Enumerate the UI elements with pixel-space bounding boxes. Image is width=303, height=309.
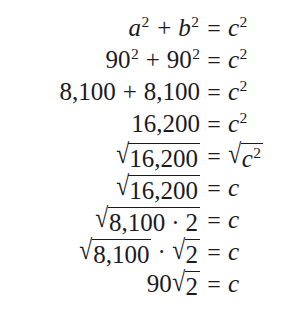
line-1-lhs: a2 + b2 [0, 12, 200, 44]
line-2-rhs: c2 [228, 44, 303, 76]
equation-line-4: 16,200 = c2 [0, 108, 303, 140]
equals-sign: = [200, 236, 228, 268]
term-90-squared-second: 902 [167, 44, 200, 76]
equals-sign: = [200, 268, 228, 300]
term-90-squared-first: 902 [105, 44, 138, 76]
line-5-rhs: √ c2 [228, 140, 303, 173]
line-6-rhs: c [228, 172, 303, 204]
square-root-16200: √ 16,200 [116, 172, 200, 205]
math-derivation-worksheet: a2 + b2 = c2 902 + 902 = c2 8,100 + 8,10… [0, 0, 303, 309]
radicand: 2 [185, 239, 201, 269]
line-3-rhs: c2 [228, 76, 303, 108]
line-3-lhs: 8,100 + 8,100 [0, 76, 200, 108]
equals-sign: = [200, 204, 228, 236]
plus-operator: + [116, 76, 144, 108]
line-5-lhs: √ 16,200 [0, 140, 200, 173]
exponent: 2 [239, 13, 247, 30]
equals-sign: = [200, 140, 228, 172]
exponent: 2 [253, 144, 261, 161]
radicand: 16,200 [128, 175, 200, 205]
term-c: c [228, 204, 240, 236]
equation-line-1: a2 + b2 = c2 [0, 12, 303, 44]
radical-sign-icon: √ [228, 136, 241, 173]
equation-line-3: 8,100 + 8,100 = c2 [0, 76, 303, 108]
exponent: 2 [192, 45, 200, 62]
term-b: b2 [178, 12, 200, 44]
equals-sign: = [200, 108, 228, 140]
radicand: c2 [241, 143, 263, 173]
equals-sign: = [200, 44, 228, 76]
dot-operator: · [151, 236, 171, 268]
equation-line-5: √ 16,200 = √ c2 [0, 140, 303, 172]
term-c: c2 [228, 44, 248, 76]
term-16200: 16,200 [131, 108, 200, 140]
term-c: c2 [228, 12, 248, 44]
line-9-rhs: c [228, 268, 303, 300]
exponent: 2 [141, 13, 149, 30]
square-root-2: √ 2 [172, 268, 200, 301]
line-9-lhs: 90 √ 2 [0, 268, 200, 301]
exponent: 2 [191, 13, 199, 30]
term-8100-first: 8,100 [59, 76, 115, 108]
square-root-8100: √ 8,100 [79, 236, 151, 269]
radicand: 16,200 [128, 143, 200, 173]
radicand: 8,100 [92, 239, 151, 269]
term-c: c [228, 172, 240, 204]
term-c: c [228, 236, 240, 268]
radicand: 2 [185, 271, 201, 301]
plus-operator: + [139, 44, 167, 76]
line-7-lhs: √ 8,100·2 [0, 204, 200, 237]
equation-line-6: √ 16,200 = c [0, 172, 303, 204]
line-1-rhs: c2 [228, 12, 303, 44]
line-8-rhs: c [228, 236, 303, 268]
line-8-lhs: √ 8,100 · √ 2 [0, 236, 200, 269]
term-a: a2 [128, 12, 150, 44]
equation-line-8: √ 8,100 · √ 2 = c [0, 236, 303, 268]
square-root-c-squared: √ c2 [228, 140, 263, 173]
plus-operator: + [150, 12, 178, 44]
exponent: 2 [239, 109, 247, 126]
radical-sign-icon: √ [80, 232, 93, 269]
exponent: 2 [239, 45, 247, 62]
term-c: c [228, 268, 240, 300]
radicand: 8,100·2 [108, 207, 200, 237]
equals-sign: = [200, 76, 228, 108]
line-4-lhs: 16,200 [0, 108, 200, 140]
radical-sign-icon: √ [116, 168, 129, 205]
radical-sign-icon: √ [96, 200, 109, 237]
exponent: 2 [239, 77, 247, 94]
equals-sign: = [200, 12, 228, 44]
term-8100-second: 8,100 [144, 76, 200, 108]
equation-line-2: 902 + 902 = c2 [0, 44, 303, 76]
equation-line-7: √ 8,100·2 = c [0, 204, 303, 236]
line-2-lhs: 902 + 902 [0, 44, 200, 76]
line-7-rhs: c [228, 204, 303, 236]
term-c: c2 [228, 76, 248, 108]
equation-line-9: 90 √ 2 = c [0, 268, 303, 300]
radical-sign-icon: √ [172, 264, 185, 301]
coefficient-90: 90 [147, 268, 172, 300]
equals-sign: = [200, 172, 228, 204]
exponent: 2 [130, 45, 138, 62]
